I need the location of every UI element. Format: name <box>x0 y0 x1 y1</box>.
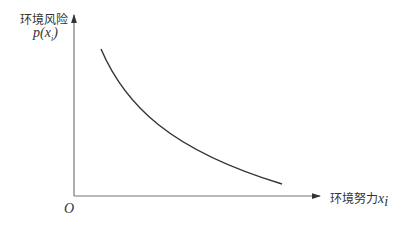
risk-curve <box>101 49 282 184</box>
origin-label: O <box>64 201 74 217</box>
y-axis-formula: p(xi) <box>33 25 58 43</box>
x-axis-title: 环境努力xi <box>330 189 388 210</box>
